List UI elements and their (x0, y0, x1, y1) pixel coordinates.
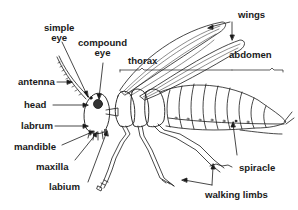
label-spiracle: spiracle (239, 163, 275, 173)
label-abdomen: abdomen (229, 50, 272, 60)
label-maxilla: maxilla (36, 162, 69, 172)
label-mandible: mandible (14, 142, 56, 152)
label-walking-limbs: walking limbs (205, 190, 268, 200)
abdomen-drawing (160, 84, 294, 134)
label-labrum: labrum (21, 121, 53, 131)
label-simple-eye: simple eye (44, 23, 74, 43)
insect-diagram: simple eye compound eye wings thorax abd… (0, 0, 298, 210)
label-simple-eye-line2: eye (44, 33, 74, 43)
label-antenna: antenna (18, 77, 55, 87)
label-compound-eye: compound eye (78, 38, 127, 58)
body-region-braces (120, 68, 283, 72)
label-thorax: thorax (128, 56, 157, 66)
label-compound-eye-line2: eye (78, 48, 127, 58)
label-head: head (24, 100, 46, 110)
label-labium: labium (49, 182, 80, 192)
label-wings: wings (238, 10, 265, 20)
legs-drawing (97, 124, 232, 191)
